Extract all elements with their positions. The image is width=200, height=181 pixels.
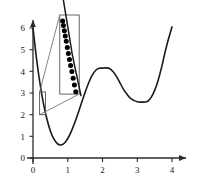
iterate-marker [72, 83, 77, 88]
x-axis-arrow-icon [179, 155, 186, 161]
x-tick-label-4: 4 [170, 165, 175, 175]
iterate-marker [66, 51, 71, 56]
y-tick-group: 0 1 2 3 4 5 6 [21, 23, 34, 163]
y-tick-label-5: 5 [21, 45, 26, 55]
zoom-connector-upper [40, 15, 60, 92]
y-axis-arrow-icon [30, 20, 36, 27]
iterate-marker [71, 76, 76, 81]
iterate-marker [63, 34, 68, 39]
y-tick-label-4: 4 [21, 67, 26, 77]
iterate-marker [65, 45, 70, 50]
data-series-group [33, 27, 172, 145]
axes-group [27, 20, 186, 164]
x-tick-label-1: 1 [66, 165, 71, 175]
iterate-marker [73, 89, 78, 94]
iterate-marker [69, 69, 74, 74]
y-tick-label-0: 0 [21, 153, 26, 163]
chart-svg: 0 1 2 3 4 0 1 2 3 4 5 6 [0, 0, 200, 181]
zoom-inset-group [59, 0, 81, 96]
x-tick-label-3: 3 [135, 165, 140, 175]
iterate-marker [60, 19, 65, 24]
x-tick-label-2: 2 [100, 165, 105, 175]
iterate-marker [67, 57, 72, 62]
chart-figure: 0 1 2 3 4 0 1 2 3 4 5 6 [0, 0, 200, 181]
y-tick-label-6: 6 [21, 23, 26, 33]
y-tick-label-1: 1 [21, 132, 26, 142]
iterate-marker [62, 28, 67, 33]
x-tick-label-0: 0 [31, 165, 36, 175]
iterate-marker [61, 23, 66, 28]
iterate-marker [68, 63, 73, 68]
objective-function-curve [33, 27, 172, 145]
y-tick-label-3: 3 [21, 88, 26, 98]
y-tick-label-2: 2 [21, 110, 26, 120]
iterate-marker [64, 39, 69, 44]
x-tick-group: 0 1 2 3 4 [31, 158, 175, 175]
